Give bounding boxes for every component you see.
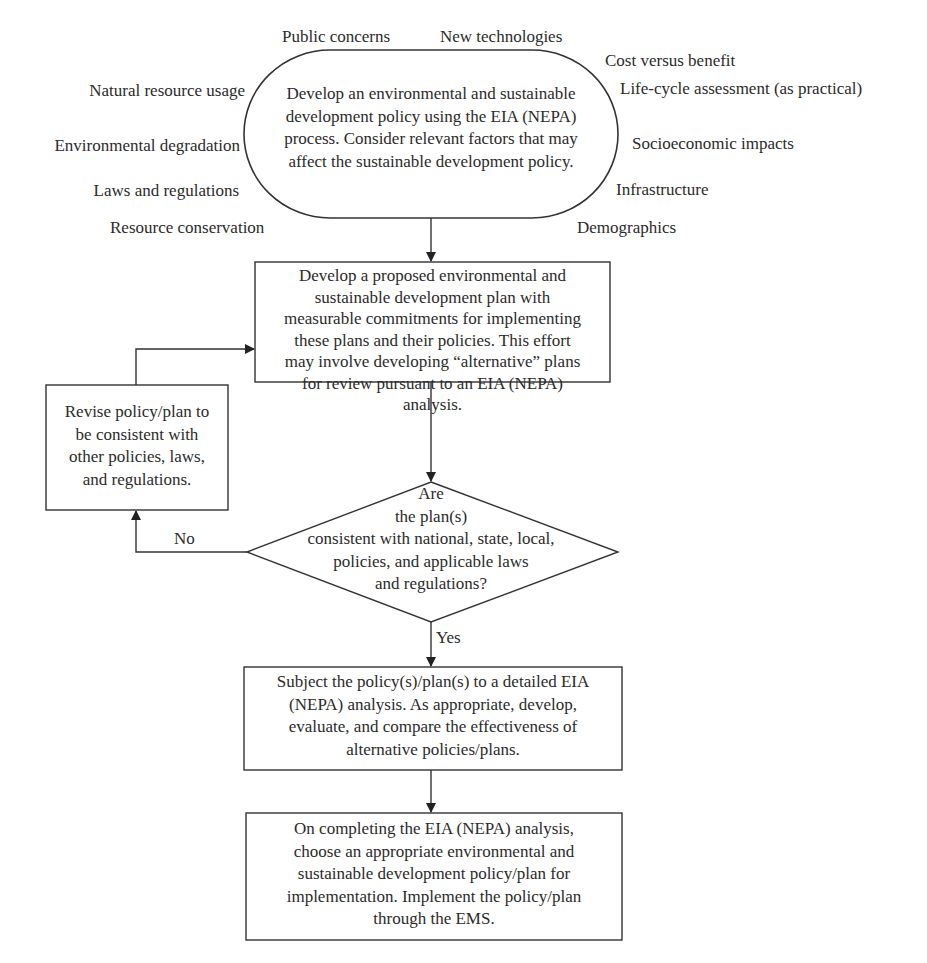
implement-box-line: sustainable development policy/plan for — [247, 863, 621, 886]
start-oval-line: process. Consider relevant factors that … — [250, 128, 612, 151]
factor-infrastructure: Infrastructure — [616, 179, 709, 201]
factor-resource-conservation: Resource conservation — [110, 217, 264, 239]
plan-box-line: may involve developing “alternative” pla… — [256, 351, 609, 373]
decision-line: consistent with national, state, local, — [281, 528, 581, 551]
start-oval-line: development policy using the EIA (NEPA) — [250, 106, 612, 129]
analysis-box-line: Subject the policy(s)/plan(s) to a detai… — [245, 671, 621, 694]
revise-box: Revise policy/plan to be consistent with… — [47, 401, 227, 491]
plan-box-line: analysis. — [256, 394, 609, 416]
factor-laws-and-regulations: Laws and regulations — [94, 180, 239, 202]
plan-box-line: measurable commitments for implementing — [256, 308, 609, 330]
implement-box-line: On completing the EIA (NEPA) analysis, — [247, 818, 621, 841]
analysis-box-line: (NEPA) analysis. As appropriate, develop… — [245, 694, 621, 717]
factor-life-cycle-assessment: Life-cycle assessment (as practical) — [620, 78, 862, 100]
arrow-revise-to-plan — [136, 349, 254, 385]
decision-line: and regulations? — [281, 573, 581, 596]
factor-public-concerns: Public concerns — [282, 26, 390, 48]
implement-box-line: choose an appropriate environmental and — [247, 841, 621, 864]
factor-demographics: Demographics — [577, 217, 676, 239]
implement-box: On completing the EIA (NEPA) analysis, c… — [247, 818, 621, 931]
implement-box-line: through the EMS. — [247, 908, 621, 931]
factor-cost-versus-benefit: Cost versus benefit — [605, 50, 735, 72]
factor-socioeconomic-impacts: Socioeconomic impacts — [632, 133, 794, 155]
start-oval: Develop an environmental and sustainable… — [250, 83, 612, 173]
plan-box-line: sustainable development plan with — [256, 287, 609, 309]
start-oval-line: Develop an environmental and sustainable — [250, 83, 612, 106]
decision-line: the plan(s) — [281, 506, 581, 529]
decision-diamond: Are the plan(s) consistent with national… — [281, 483, 581, 596]
decision-line: Are — [281, 483, 581, 506]
revise-box-line: other policies, laws, — [47, 446, 227, 469]
plan-box-line: these plans and their policies. This eff… — [256, 330, 609, 352]
analysis-box-line: alternative policies/plans. — [245, 739, 621, 762]
plan-box-line: Develop a proposed environmental and — [256, 265, 609, 287]
factor-natural-resource-usage: Natural resource usage — [89, 80, 245, 102]
factor-new-technologies: New technologies — [440, 26, 562, 48]
revise-box-line: and regulations. — [47, 469, 227, 492]
plan-box-line: for review pursuant to an EIA (NEPA) — [256, 373, 609, 395]
start-oval-line: affect the sustainable development polic… — [250, 151, 612, 174]
yes-label: Yes — [436, 627, 461, 649]
no-label: No — [174, 528, 195, 550]
implement-box-line: implementation. Implement the policy/pla… — [247, 886, 621, 909]
decision-line: policies, and applicable laws — [281, 551, 581, 574]
revise-box-line: be consistent with — [47, 424, 227, 447]
revise-box-line: Revise policy/plan to — [47, 401, 227, 424]
analysis-box-line: evaluate, and compare the effectiveness … — [245, 716, 621, 739]
factor-environmental-degradation: Environmental degradation — [54, 135, 240, 157]
analysis-box: Subject the policy(s)/plan(s) to a detai… — [245, 671, 621, 761]
plan-box: Develop a proposed environmental and sus… — [256, 265, 609, 416]
